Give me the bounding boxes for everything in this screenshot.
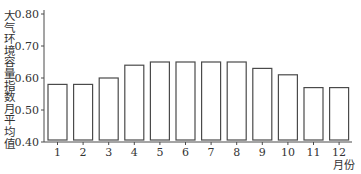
y-tick-label: 0.70 <box>15 40 40 53</box>
x-tick-label: 6 <box>182 146 189 159</box>
x-tick-label: 8 <box>233 146 240 159</box>
bar-chart: 0.400.500.600.700.80123456789101112 <box>0 0 361 174</box>
bar-month-10 <box>278 75 297 140</box>
x-tick-label: 11 <box>307 146 321 159</box>
bar-month-8 <box>227 62 246 140</box>
y-axis-label: 大气环境容量指数月平均值 <box>3 11 16 150</box>
bar-month-11 <box>304 88 323 140</box>
bar-month-7 <box>202 62 221 140</box>
x-tick-label: 5 <box>156 146 163 159</box>
bar-month-4 <box>125 65 144 140</box>
bar-month-6 <box>176 62 195 140</box>
x-tick-label: 4 <box>131 146 138 159</box>
bar-month-9 <box>253 68 272 140</box>
bar-month-5 <box>150 62 169 140</box>
x-tick-label: 1 <box>54 146 61 159</box>
y-tick-label: 0.60 <box>15 72 40 85</box>
x-tick-label: 9 <box>259 146 266 159</box>
y-tick-label: 0.50 <box>15 104 40 117</box>
bar-month-12 <box>330 88 349 140</box>
x-axis-label: 月份 <box>333 156 355 172</box>
bar-month-3 <box>99 78 118 140</box>
y-tick-label: 0.80 <box>15 8 40 21</box>
x-tick-label: 10 <box>281 146 295 159</box>
bar-month-1 <box>48 84 67 140</box>
x-tick-label: 2 <box>80 146 87 159</box>
x-tick-label: 3 <box>105 146 112 159</box>
x-tick-label: 7 <box>208 146 215 159</box>
y-tick-label: 0.40 <box>15 136 40 149</box>
bar-month-2 <box>74 84 93 140</box>
